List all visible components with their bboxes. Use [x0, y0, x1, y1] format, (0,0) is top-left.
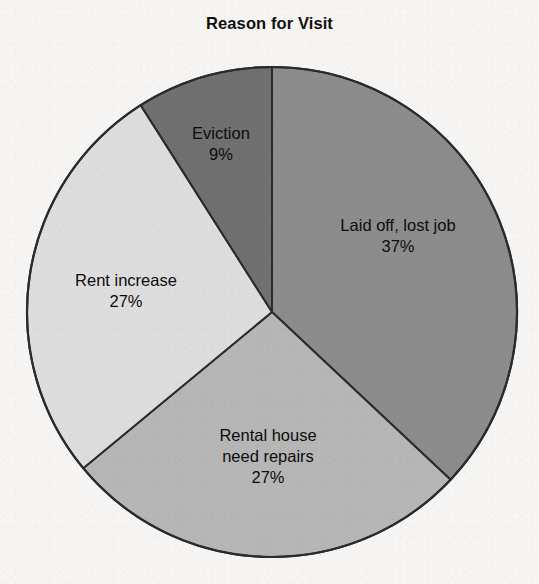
pie-chart: [0, 0, 539, 584]
pie-slice-group: [27, 67, 517, 557]
chart-page: Reason for Visit Laid off, lost job 37% …: [0, 0, 539, 584]
